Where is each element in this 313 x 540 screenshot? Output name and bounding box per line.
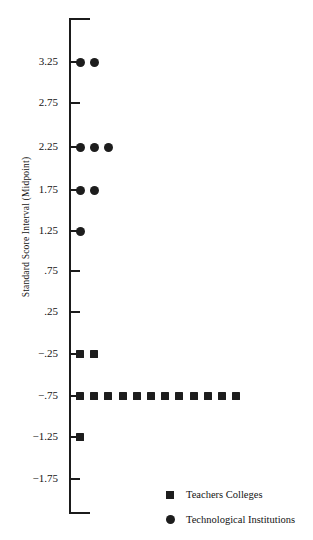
y-axis-tick-label: 2.25	[0, 141, 58, 152]
data-point-square	[76, 392, 84, 400]
data-point-square	[133, 392, 141, 400]
y-axis-tick-label-wrap: 2.75	[0, 97, 58, 108]
data-point-square	[90, 350, 98, 358]
y-axis-tick-label-wrap: 1.75	[0, 184, 58, 195]
y-axis-tick-label: −1.25	[0, 431, 58, 442]
y-axis-tick-label-wrap: −1.75	[0, 473, 58, 484]
y-axis-tick-label: −.75	[0, 390, 58, 401]
y-axis-bottom-cap	[69, 512, 90, 514]
data-point-circle	[90, 186, 99, 195]
y-axis-tick-label: 3.25	[0, 56, 58, 67]
y-axis-tick-label-wrap: 1.25	[0, 225, 58, 236]
data-point-circle	[90, 143, 99, 152]
y-axis-tick	[71, 311, 80, 313]
square-marker-icon	[166, 491, 174, 499]
y-axis-tick-label: −1.75	[0, 473, 58, 484]
data-point-square	[161, 392, 169, 400]
data-point-square	[76, 350, 84, 358]
y-axis-tick	[71, 478, 80, 480]
legend-item-label: Teachers Colleges	[186, 489, 263, 500]
y-axis-top-cap	[69, 18, 90, 20]
legend-swatch-wrap	[163, 515, 177, 524]
y-axis-tick	[71, 102, 80, 104]
y-axis-tick-label: 2.75	[0, 97, 58, 108]
data-point-square	[218, 392, 226, 400]
y-axis-tick-label: .25	[0, 306, 58, 317]
scatter-chart: Standard Score Interval (Midpoint) 3.252…	[0, 0, 313, 540]
data-point-square	[175, 392, 183, 400]
data-point-circle	[104, 143, 113, 152]
data-point-circle	[76, 143, 85, 152]
legend-swatch-wrap	[163, 491, 177, 499]
y-axis-tick-label-wrap: .75	[0, 265, 58, 276]
legend-item-technological-institutions[interactable]: Technological Institutions	[163, 507, 295, 532]
data-point-circle	[76, 58, 85, 67]
y-axis-tick	[71, 270, 80, 272]
legend-item-label: Technological Institutions	[186, 514, 295, 525]
data-point-circle	[76, 227, 85, 236]
legend-item-teachers-colleges[interactable]: Teachers Colleges	[163, 482, 295, 507]
y-axis-tick-label-wrap: 3.25	[0, 56, 58, 67]
data-point-square	[119, 392, 127, 400]
data-point-square	[232, 392, 240, 400]
y-axis-tick-label: 1.25	[0, 225, 58, 236]
y-axis-tick-label-wrap: −.75	[0, 390, 58, 401]
y-axis-tick-label: −.25	[0, 348, 58, 359]
data-point-circle	[90, 58, 99, 67]
chart-legend: Teachers CollegesTechnological Instituti…	[163, 482, 295, 532]
data-point-square	[147, 392, 155, 400]
data-point-square	[190, 392, 198, 400]
y-axis-tick-label-wrap: −1.25	[0, 431, 58, 442]
data-point-square	[104, 392, 112, 400]
data-point-square	[90, 392, 98, 400]
data-point-circle	[76, 186, 85, 195]
y-axis-tick-label: .75	[0, 265, 58, 276]
y-axis-tick-label: 1.75	[0, 184, 58, 195]
y-axis-tick-label-wrap: .25	[0, 306, 58, 317]
y-axis-tick-label-wrap: 2.25	[0, 141, 58, 152]
y-axis-line	[69, 18, 71, 514]
data-point-square	[76, 433, 84, 441]
circle-marker-icon	[166, 515, 175, 524]
y-axis-tick-label-wrap: −.25	[0, 348, 58, 359]
data-point-square	[204, 392, 212, 400]
